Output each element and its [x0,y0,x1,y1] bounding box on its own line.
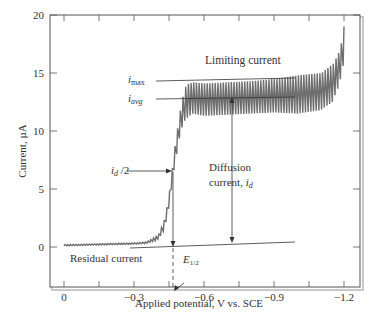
x-axis-label: Applied potential, V vs. SCE [135,297,263,309]
y-tick-label: 0 [39,241,45,253]
half-id-label: id /2 [111,164,129,178]
limiting-current-label: Limiting current [205,54,281,67]
y-tick-label: 5 [39,183,45,195]
y-tick-label: 20 [33,9,45,21]
diffusion-current-label-line1: Diffusion [209,161,251,173]
polarogram-chart: 05101520 0−0.3−0.6−0.9−1.2 Limiting curr… [0,0,378,322]
residual-current-label: Residual current [70,252,142,264]
x-tick-label: −1.2 [334,291,354,303]
x-tick-label: −0.9 [264,291,284,303]
y-tick-label: 10 [33,125,45,137]
y-tick-label: 15 [33,67,45,79]
diffusion-current-label-line2: current, id [209,176,254,190]
y-axis-label: Current, µA [16,124,28,177]
x-tick-label: 0 [61,291,67,303]
